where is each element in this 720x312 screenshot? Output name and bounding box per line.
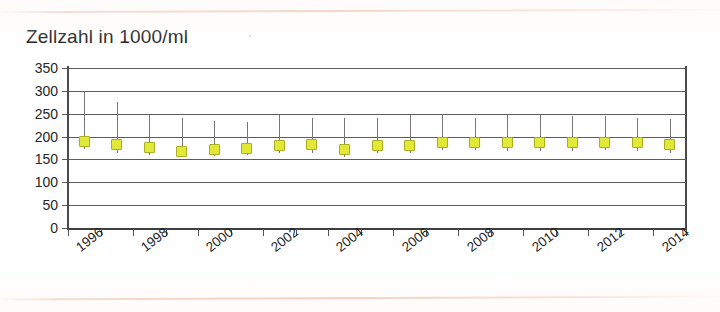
gridline-100 [68,182,686,183]
error-bar-upper [84,91,85,141]
data-point-marker [306,139,317,150]
x-axis-tick-mark [523,229,524,236]
x-axis-tick-mark [588,229,589,236]
scan-speck [249,35,251,37]
x-axis-tick-mark [133,229,134,236]
x-axis-tick-mark [653,229,654,236]
y-axis-labels: 050100150200250300350 [20,0,58,312]
data-point-marker [632,137,643,148]
data-point-marker [372,140,383,151]
x-axis-tick-mark [458,229,459,236]
data-point-marker [404,140,415,151]
scan-edge-bottom [0,296,720,301]
gridline-350 [68,68,686,69]
gridline-50 [68,205,686,206]
x-axis-tick-mark [393,229,394,236]
y-axis-tick-label: 150 [24,152,58,166]
data-point-marker [567,137,578,148]
gridline-150 [68,159,686,160]
y-axis-tick-label: 250 [24,107,58,121]
y-axis-tick-label: 0 [24,221,58,235]
data-point-marker [241,143,252,154]
data-point-marker [534,137,545,148]
data-point-marker [437,137,448,148]
gridline-250 [68,114,686,115]
data-point-marker [502,137,513,148]
gridline-300 [68,91,686,92]
data-point-marker [274,140,285,151]
data-point-marker [599,137,610,148]
y-axis-tick-label: 350 [24,61,58,75]
data-point-marker [176,146,187,157]
y-axis-tick-label: 200 [24,130,58,144]
data-point-marker [339,144,350,155]
data-point-marker [469,137,480,148]
y-axis-tick-label: 300 [24,84,58,98]
data-point-marker [111,139,122,150]
x-axis-tick-mark [263,229,264,236]
plot-area [68,68,686,228]
y-axis-tick-label: 50 [24,198,58,212]
x-axis-tick-mark [68,229,69,236]
y-axis-tick-label: 100 [24,175,58,189]
scanned-page: Zellzahl in 1000/ml 05010015020025030035… [0,0,720,312]
x-axis-tick-mark [198,229,199,236]
data-point-marker [664,139,675,150]
scan-edge-top [0,9,720,13]
data-point-marker [79,136,90,147]
x-axis-tick-mark [328,229,329,236]
data-point-marker [144,142,155,153]
data-point-marker [209,144,220,155]
